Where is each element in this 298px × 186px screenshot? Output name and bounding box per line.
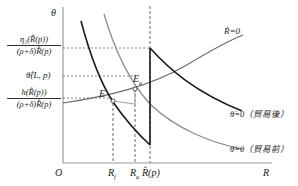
h-numerator: h(R̂(p)) bbox=[7, 88, 61, 99]
tick-rhat: R̂(p) bbox=[142, 168, 160, 178]
eta-denominator: (ρ+δ)R̂(p) bbox=[7, 46, 61, 56]
curve-r-dot-zero bbox=[63, 35, 243, 103]
h-denominator: (ρ+δ)R̂(p) bbox=[7, 99, 61, 109]
tick-ra: Ra bbox=[130, 168, 139, 180]
curve-theta-dot-pre-trade bbox=[104, 14, 243, 149]
point-E bbox=[111, 99, 115, 103]
origin-label: O bbox=[55, 168, 62, 178]
tick-eta-fraction: η₁(R̂(p)) (ρ+δ)R̂(p) bbox=[7, 35, 61, 55]
label-theta-dot-post: θ̇=0（貿易後） bbox=[230, 110, 289, 119]
point-Ea bbox=[133, 87, 137, 91]
tick-rf: Rf bbox=[108, 168, 116, 180]
ra-sub: a bbox=[136, 174, 139, 180]
label-E: E bbox=[99, 89, 105, 99]
curve-theta-dot-post-trade-right bbox=[150, 48, 242, 111]
label-r-dot-zero: Ṙ=0 bbox=[224, 27, 240, 36]
label-theta-dot-pre: θ̇=0（貿易前） bbox=[230, 145, 289, 154]
tick-h-fraction: h(R̂(p)) (ρ+δ)R̂(p) bbox=[7, 88, 61, 108]
x-axis-label: R bbox=[263, 168, 269, 178]
eta-numerator: η₁(R̂(p)) bbox=[7, 35, 61, 46]
tick-theta-hat: θ̂(L, p) bbox=[26, 71, 50, 80]
y-axis-label: θ bbox=[51, 8, 56, 18]
ea-sub: a bbox=[139, 80, 142, 86]
rf-sub: f bbox=[114, 174, 116, 180]
label-Ea: Ea bbox=[133, 74, 142, 86]
